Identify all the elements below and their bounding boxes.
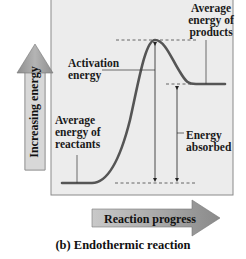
- products-label: Average energy of products: [185, 2, 237, 38]
- reactants-label-line2: energy of: [55, 126, 101, 138]
- energy-diagram: Average energy of products Activation en…: [0, 0, 246, 259]
- reactants-label-line3: reactants: [55, 138, 101, 150]
- products-label-line2: energy of: [185, 14, 237, 26]
- reactants-label: Average energy of reactants: [55, 114, 101, 150]
- y-axis-label: Increasing energy: [27, 66, 42, 157]
- absorbed-label-line1: Energy: [186, 129, 231, 141]
- activation-label-line1: Activation: [68, 57, 119, 69]
- absorbed-label-line2: absorbed: [186, 141, 231, 153]
- absorbed-label: Energy absorbed: [186, 129, 231, 153]
- products-label-line3: products: [185, 26, 237, 38]
- x-axis-label: Reaction progress: [104, 212, 196, 227]
- activation-label-line2: energy: [68, 69, 119, 81]
- products-label-line1: Average: [185, 2, 237, 14]
- figure-caption: (b) Endothermic reaction: [0, 238, 246, 253]
- activation-label: Activation energy: [68, 57, 119, 81]
- reactants-label-line1: Average: [55, 114, 101, 126]
